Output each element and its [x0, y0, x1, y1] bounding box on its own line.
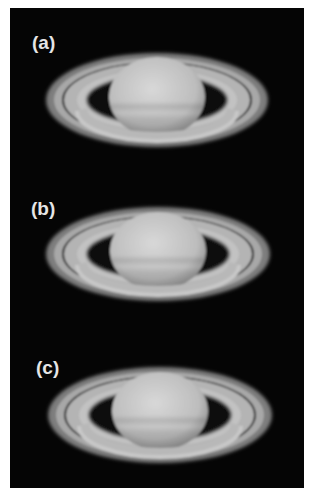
- saturn-b: [46, 207, 270, 301]
- saturn-c: [48, 367, 272, 463]
- saturn-image-panel: (a) (b) (c): [10, 8, 304, 488]
- saturn-a: [46, 53, 268, 147]
- saturn-image-a: [10, 8, 304, 488]
